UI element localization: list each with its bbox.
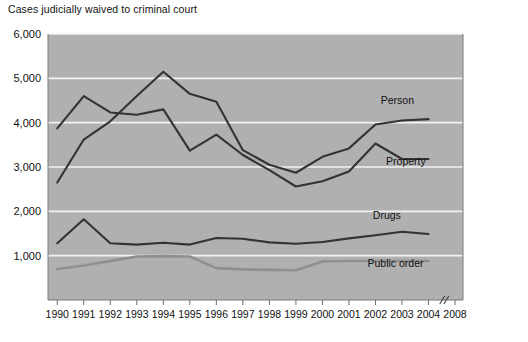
- x-axis-label: 1998: [258, 308, 282, 320]
- y-axis-label: 6,000: [13, 28, 41, 40]
- x-axis-label: 1996: [205, 308, 229, 320]
- x-axis-label: 2008: [443, 308, 467, 320]
- x-axis-label: 1999: [284, 308, 308, 320]
- x-axis-label: 2002: [364, 308, 388, 320]
- chart-title: Cases judicially waived to criminal cour…: [8, 3, 197, 15]
- x-axis-label: 1991: [72, 308, 96, 320]
- line-chart: 1,0002,0003,0004,0005,0006,0001990199119…: [0, 0, 528, 342]
- y-axis-label: 4,000: [13, 117, 41, 129]
- y-axis-label: 1,000: [13, 250, 41, 262]
- series-label-public-order: Public order: [368, 257, 425, 269]
- series-label-person: Person: [381, 94, 414, 106]
- x-axis-label: 1993: [125, 308, 149, 320]
- y-axis-label: 3,000: [13, 161, 41, 173]
- series-label-drugs: Drugs: [373, 209, 401, 221]
- y-axis-label: 2,000: [13, 205, 41, 217]
- series-label-property: Property: [386, 155, 426, 167]
- x-axis-label: 2004: [417, 308, 441, 320]
- x-axis-label: 1994: [152, 308, 176, 320]
- x-axis-label: 1990: [46, 308, 70, 320]
- y-axis-label: 5,000: [13, 72, 41, 84]
- chart-container: Cases judicially waived to criminal cour…: [0, 0, 528, 342]
- x-axis-label: 2001: [337, 308, 361, 320]
- x-axis-label: 1992: [99, 308, 123, 320]
- x-axis-label: 2000: [311, 308, 335, 320]
- x-axis-label: 1997: [231, 308, 255, 320]
- x-axis-label: 1995: [178, 308, 202, 320]
- x-axis-label: 2003: [390, 308, 414, 320]
